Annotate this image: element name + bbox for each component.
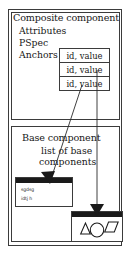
- circle-icon: [90, 223, 103, 237]
- parallelogram-icon: [105, 222, 118, 232]
- base-left-window: sgdsg idtj h: [15, 177, 73, 207]
- anchor-row: id, value: [59, 62, 110, 77]
- figure-root: Composite component Attributes PSpec Anc…: [0, 0, 134, 257]
- attributes-label: Attributes: [19, 26, 66, 35]
- base-list-line-2: components: [39, 157, 96, 166]
- anchors-table: id, value id, value id, value: [59, 48, 110, 90]
- left-window-text-line-2: idtj h: [21, 196, 32, 201]
- left-window-text-line-1: sgdsg: [21, 187, 34, 192]
- composite-component-heading: Composite component: [13, 13, 119, 23]
- window-titlebar: [16, 178, 72, 183]
- anchors-label: Anchors: [19, 50, 58, 59]
- shapes-group: [72, 217, 122, 242]
- anchor-row: id, value: [59, 76, 110, 91]
- anchor-row: id, value: [59, 48, 110, 63]
- triangle-icon: [81, 223, 91, 234]
- pspec-label: PSpec: [19, 38, 48, 47]
- base-list-line-1: list of base: [41, 146, 92, 155]
- base-right-window: [71, 211, 123, 242]
- base-component-heading: Base component: [22, 133, 100, 143]
